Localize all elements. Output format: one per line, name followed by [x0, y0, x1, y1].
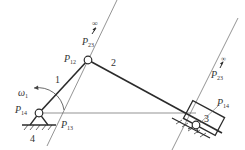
leader-p34	[200, 106, 218, 123]
label-link-4: 4	[30, 133, 35, 144]
label-p34: P14	[216, 97, 229, 109]
slider-pivot	[192, 121, 200, 129]
label-omega-1: ω1	[18, 87, 28, 99]
label-link-2: 2	[111, 57, 116, 68]
label-p13: P13	[60, 119, 73, 131]
label-p23-right: P23	[210, 69, 223, 81]
link-1-crank	[39, 60, 88, 113]
label-inf-left: ∞	[92, 19, 98, 28]
mechanism-diagram: ∞ P23 P12 2 1 ω1 P14 P13 4 ∞ P23 P14 3	[0, 0, 245, 150]
link-2-coupler	[88, 60, 222, 133]
omega-arrow-head	[34, 86, 39, 91]
joint-p12	[84, 56, 92, 64]
label-p14: P14	[14, 104, 27, 116]
label-p12: P12	[63, 53, 76, 65]
label-p23-left: P23	[81, 36, 94, 48]
construction-line-p12	[47, 0, 117, 146]
label-link-3: 3	[204, 113, 209, 124]
label-link-1: 1	[55, 74, 60, 85]
pivot-p14	[35, 109, 43, 117]
label-inf-right: ∞	[221, 55, 226, 63]
